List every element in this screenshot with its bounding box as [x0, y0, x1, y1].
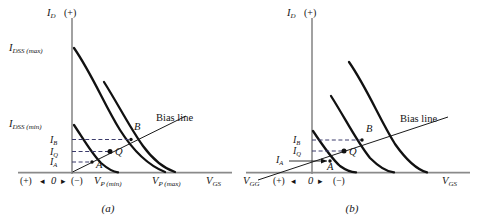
panel-a-x-axis-label: VGS	[206, 175, 221, 188]
panel-b-iq-label: IQ	[292, 145, 301, 157]
panel-b-point-a-label: A	[326, 161, 334, 172]
panel-a-origin-label: 0	[51, 175, 57, 186]
panel-a-point-b-label: B	[134, 121, 141, 132]
panel-b-point-q-label: Q	[349, 146, 357, 157]
panel-b-y-axis-label: ID	[286, 7, 296, 20]
panel-b-arrow-right-icon: ▸	[318, 176, 323, 186]
figure-svg: ID (+) IDSS (max) IDSS (min) IB IQ IA B …	[0, 0, 480, 221]
panel-b-point-b-dot	[360, 138, 363, 141]
panel-b-vgg-label: VGG	[243, 175, 260, 188]
panel-b-x-axis-label: VGS	[442, 175, 457, 188]
panel-a-polarity-positive: (+)	[20, 176, 32, 187]
panel-a-arrow-left-icon: ◂	[40, 176, 45, 186]
panel-b-polarity-negative: (−)	[333, 176, 345, 187]
panel-a-point-b-dot	[129, 138, 132, 141]
panel-b-arrow-left-icon: ◂	[291, 176, 296, 186]
panel-a-caption: (a)	[102, 202, 115, 215]
panel-a-polarity-negative: (−)	[71, 176, 83, 187]
panel-a-y-axis-label: ID	[46, 7, 56, 20]
panel-a: ID (+) IDSS (max) IDSS (min) IB IQ IA B …	[8, 7, 232, 215]
panel-a-arrow-right-icon: ▸	[61, 176, 66, 186]
panel-b-caption: (b)	[346, 202, 359, 215]
panel-a-idss-min-label: IDSS (min)	[8, 118, 42, 131]
panel-b-ia-label: IA	[275, 154, 283, 166]
panel-a-ia-label: IA	[49, 156, 57, 168]
panel-a-point-a-dot	[90, 160, 93, 163]
figure-container: ID (+) IDSS (max) IDSS (min) IB IQ IA B …	[0, 0, 480, 221]
panel-a-point-q-dot	[108, 149, 113, 154]
panel-a-idss-max-label: IDSS (max)	[8, 42, 43, 55]
panel-b-point-b-label: B	[366, 123, 373, 134]
panel-b: ID (+) IB IQ IA B Q A Bias line VGG (+) …	[243, 7, 470, 215]
panel-a-point-a-label: A	[95, 159, 103, 170]
panel-a-y-axis-sign: (+)	[64, 7, 76, 19]
panel-b-curve-typical	[331, 96, 394, 172]
panel-a-ib-label: IB	[49, 134, 57, 146]
panel-b-polarity-positive: (+)	[273, 176, 285, 187]
panel-b-point-q-dot	[342, 149, 347, 154]
panel-a-vp-min-label: VP (min)	[94, 175, 122, 188]
panel-b-origin-label: 0	[308, 175, 314, 186]
panel-b-y-axis-sign: (+)	[304, 7, 316, 19]
panel-a-vp-max-label: VP (max)	[152, 175, 181, 188]
panel-b-bias-line-label: Bias line	[400, 113, 437, 124]
panel-a-bias-line-label: Bias line	[156, 112, 193, 123]
panel-a-point-q-label: Q	[115, 146, 123, 157]
